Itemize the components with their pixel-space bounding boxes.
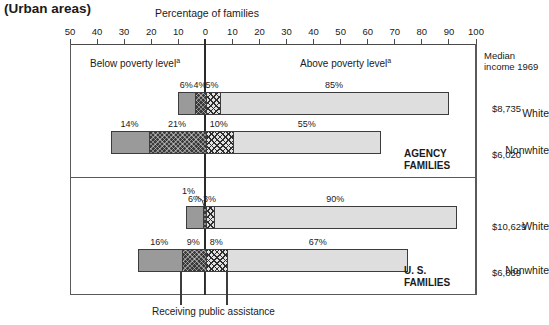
- one-percent-callout-leader: [0, 0, 549, 325]
- chart-canvas: (Urban areas) Percentage of families 504…: [0, 0, 549, 325]
- one-percent-callout-label: 1%: [182, 187, 195, 196]
